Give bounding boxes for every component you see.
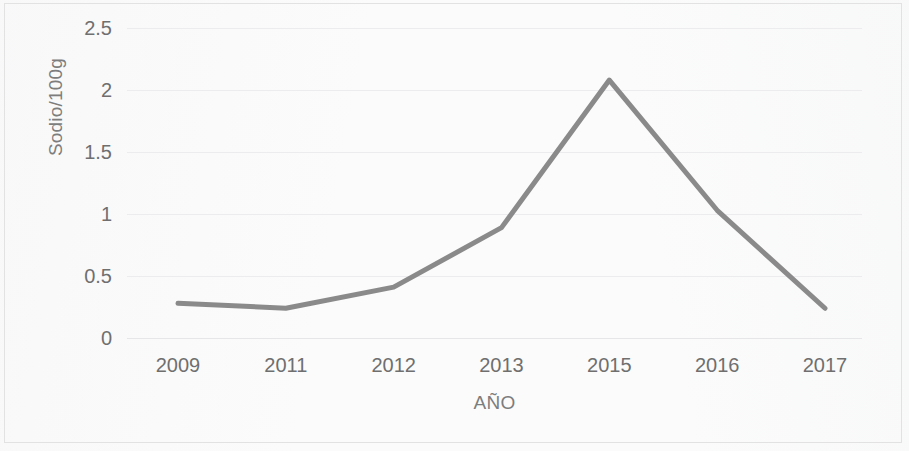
y-axis-tick-label: 2.5 (12, 18, 112, 38)
x-axis-tick-labels: 2009201120122013201520162017 (127, 355, 862, 385)
x-axis-tick-label: 2015 (549, 355, 669, 375)
x-axis-tick-label: 2011 (226, 355, 346, 375)
x-axis-tick-label: 2012 (334, 355, 454, 375)
y-axis-tick-label: 0 (12, 328, 112, 348)
y-axis-tick-label: 2 (12, 80, 112, 100)
x-axis-tick-label: 2017 (765, 355, 885, 375)
line-chart: Sodio/100g 00.511.522.5 2009201120122013… (0, 0, 909, 451)
series-line (127, 28, 862, 338)
plot-area (127, 28, 862, 338)
y-axis-tick-label: 0.5 (12, 266, 112, 286)
gridline (127, 338, 862, 339)
x-axis-tick-label: 2013 (442, 355, 562, 375)
y-axis-tick-label: 1 (12, 204, 112, 224)
x-axis-title: AÑO (127, 392, 862, 414)
x-axis-tick-label: 2016 (657, 355, 777, 375)
y-axis-tick-label: 1.5 (12, 142, 112, 162)
x-axis-tick-label: 2009 (118, 355, 238, 375)
y-axis-tick-labels: 00.511.522.5 (0, 28, 112, 338)
